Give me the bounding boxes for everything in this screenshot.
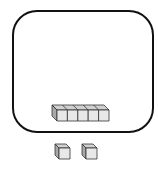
cube-front-face <box>59 148 70 159</box>
rod-cube-front-face <box>78 110 88 121</box>
loose-cubes <box>55 144 97 159</box>
cube-front-face <box>86 148 97 159</box>
base-ten-diagram <box>0 0 158 170</box>
rod-top-face <box>52 105 109 110</box>
rod-cube-front-face <box>99 110 109 121</box>
rod-cube-front-face <box>67 110 77 121</box>
rod-cube-front-face <box>57 110 67 121</box>
rod-of-five <box>52 105 109 121</box>
rod-cube-front-face <box>88 110 98 121</box>
unit-cube-2 <box>82 144 97 159</box>
unit-cube-1 <box>55 144 70 159</box>
